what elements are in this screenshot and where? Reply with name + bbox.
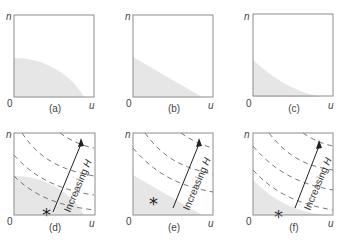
panel-caption: (a) (40, 104, 70, 114)
x-axis-label: u (89, 219, 95, 229)
panel-f: * Increasing H n 0 u (f) (239, 118, 339, 236)
feasible-region-concave (14, 58, 84, 97)
panel-a: n 0 u (a) (0, 0, 110, 118)
origin-label: 0 (7, 99, 13, 109)
panel-caption: (e) (159, 223, 189, 233)
panel-b: n 0 u (b) (119, 0, 229, 118)
y-axis-label: n (6, 12, 12, 22)
feasible-region-linear (133, 57, 202, 97)
x-axis-label: u (208, 101, 214, 111)
feasible-region-convex (253, 60, 323, 97)
arrowhead-icon (316, 140, 322, 149)
y-axis-label: n (244, 130, 250, 140)
origin-label: 0 (246, 99, 252, 109)
y-axis-label: n (125, 12, 131, 22)
optimum-asterisk: * (149, 193, 158, 214)
panel-caption: (d) (40, 223, 70, 233)
origin-label: 0 (126, 217, 132, 227)
y-axis-label: n (244, 12, 250, 22)
origin-label: 0 (126, 99, 132, 109)
panel-caption: (b) (159, 104, 189, 114)
panel-f-plot: * Increasing H (239, 118, 339, 236)
increasing-h-label: Increasing H (181, 155, 213, 212)
panel-e: * Increasing H n 0 u (e) (119, 118, 229, 236)
origin-label: 0 (246, 217, 252, 227)
increasing-h-label: Increasing H (62, 157, 94, 214)
panel-caption: (f) (279, 223, 309, 233)
y-axis-label: n (125, 130, 131, 140)
panel-caption: (c) (279, 104, 309, 114)
arrowhead-icon (78, 138, 84, 147)
x-axis-label: u (89, 101, 95, 111)
y-axis-label: n (6, 130, 12, 140)
panel-c: n 0 u (c) (239, 0, 339, 118)
x-axis-label: u (328, 219, 334, 229)
panel-c-plot (239, 0, 339, 118)
x-axis-label: u (328, 101, 334, 111)
origin-label: 0 (7, 217, 13, 227)
x-axis-label: u (208, 219, 214, 229)
panel-d: * Increasing H n 0 u (d) (0, 118, 110, 236)
